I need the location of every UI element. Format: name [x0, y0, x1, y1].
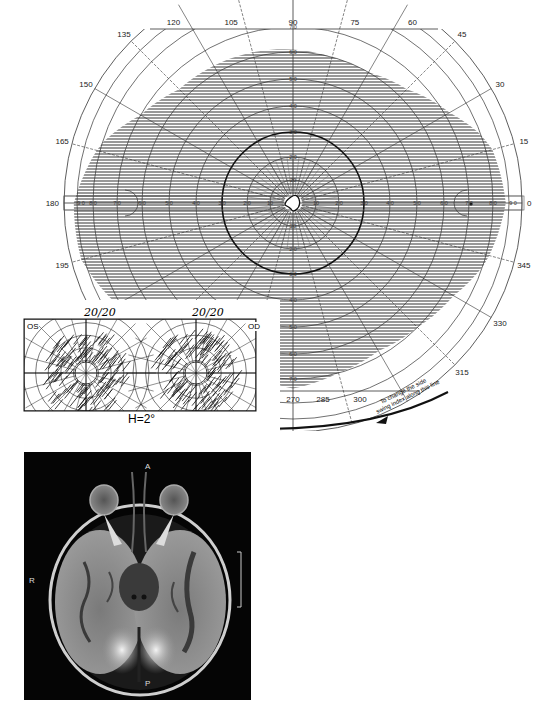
angle-label-315: 315 — [455, 368, 469, 377]
v-scale-label: 4 0 — [289, 103, 297, 109]
amsler-os-label: OS — [27, 322, 39, 331]
amsler-right-acuity: 20/20 — [192, 306, 224, 319]
v-scale-label: 20 — [290, 223, 296, 229]
angle-label-120: 120 — [167, 18, 181, 27]
h-scale-label: 4 0 — [192, 200, 200, 206]
angle-label-195: 195 — [55, 261, 69, 270]
v-scale-label: 3 0 — [289, 129, 297, 135]
angle-label-180: 180 — [46, 199, 60, 208]
h-scale-label: 3 0 — [218, 200, 226, 206]
v-scale-label: 6 0 — [289, 351, 297, 357]
h-scale-label: 4 0 — [386, 200, 394, 206]
mri-right-label: R — [29, 576, 35, 585]
angle-label-300: 300 — [353, 395, 367, 404]
mri-axial-image: A P R — [24, 452, 251, 700]
angle-label-45: 45 — [458, 30, 467, 39]
angle-label-150: 150 — [79, 80, 93, 89]
angle-label-75: 75 — [350, 18, 359, 27]
h-scale-label: 2 0 — [243, 200, 251, 206]
angle-label-330: 330 — [493, 319, 507, 328]
v-scale-label: 4 0 — [289, 297, 297, 303]
h-scale-label: 9 0 — [509, 200, 517, 206]
v-scale-label: 3 0 — [289, 271, 297, 277]
h-scale-label: 5 0 — [165, 200, 173, 206]
amsler-caption: H=2° — [128, 412, 155, 426]
h-scale-label: 2 0 — [335, 200, 343, 206]
angle-label-270: 270 — [286, 395, 300, 404]
v-scale-label: 2 0 — [289, 246, 297, 252]
v-scale-label: 7 0 — [289, 376, 297, 382]
h-scale-label: 6 0 — [440, 200, 448, 206]
h-scale-label: 5 0 — [413, 200, 421, 206]
h-scale-label: 8 0 — [89, 200, 97, 206]
v-scale-label: 20 — [290, 177, 296, 183]
angle-label-30: 30 — [496, 80, 505, 89]
angle-label-0: 0 — [527, 199, 532, 208]
v-scale-label: 6 0 — [289, 49, 297, 55]
h-scale-label: 10 — [267, 200, 273, 206]
angle-label-15: 15 — [519, 137, 528, 146]
amsler-grid-panel: 20/20 20/20 OS OD H=2° — [0, 300, 280, 450]
angle-label-165: 165 — [55, 137, 69, 146]
angle-label-135: 135 — [117, 30, 131, 39]
h-scale-label: 10 — [313, 200, 319, 206]
v-scale-label: 5 0 — [289, 76, 297, 82]
h-scale-label: 8 0 — [489, 200, 497, 206]
h-scale-label: 3 0 — [360, 200, 368, 206]
h-scale-label: 9 0 — [77, 200, 85, 206]
mri-posterior-label: P — [145, 679, 150, 688]
mri-anterior-label: A — [145, 462, 150, 471]
v-scale-label: 5 0 — [289, 324, 297, 330]
angle-label-60: 60 — [408, 18, 417, 27]
angle-label-345: 345 — [517, 261, 531, 270]
v-scale-label: 7 0 — [289, 24, 297, 30]
amsler-od-label: OD — [248, 322, 260, 331]
h-scale-label: 7 0 — [113, 200, 121, 206]
h-scale-label: 7 0 — [465, 200, 473, 206]
h-scale-label: 6 0 — [138, 200, 146, 206]
amsler-left-acuity: 20/20 — [84, 306, 116, 319]
v-scale-label: 2 0 — [289, 154, 297, 160]
angle-label-105: 105 — [224, 18, 238, 27]
angle-label-285: 285 — [316, 395, 330, 404]
